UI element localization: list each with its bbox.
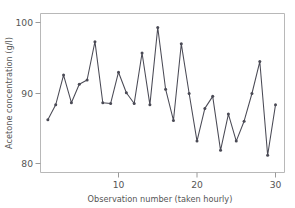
data-point — [54, 103, 57, 106]
data-series-group — [46, 26, 277, 157]
data-point — [250, 92, 253, 95]
data-point — [188, 92, 191, 95]
data-point — [156, 26, 159, 29]
x-axis-tick-labels: 10 20 30 — [113, 179, 282, 190]
y-axis-tick-labels: 100 90 80 — [15, 17, 33, 169]
y-tick-label-80: 80 — [21, 158, 33, 169]
x-tick-label-20: 20 — [191, 179, 203, 190]
data-point — [196, 140, 199, 143]
data-point — [164, 88, 167, 91]
plot-frame — [41, 14, 285, 173]
data-point — [148, 103, 151, 106]
data-point — [78, 83, 81, 86]
data-point — [86, 79, 89, 82]
x-axis-title: Observation number (taken hourly) — [88, 194, 233, 204]
data-point — [203, 107, 206, 110]
data-point — [243, 120, 246, 123]
data-point — [219, 149, 222, 152]
y-axis-title: Acetone concentration (g/l) — [4, 37, 14, 149]
data-point — [227, 113, 230, 116]
data-point — [62, 74, 65, 77]
acetone-concentration-chart: 100 90 80 10 20 30 Observation number (t… — [0, 0, 295, 208]
data-point — [117, 71, 120, 74]
data-point — [101, 101, 104, 104]
data-point — [211, 95, 214, 98]
data-point — [109, 102, 112, 105]
data-point — [70, 101, 73, 104]
data-point — [266, 154, 269, 157]
plot-frame-rect — [41, 14, 285, 173]
acetone-markers — [46, 26, 277, 157]
data-point — [46, 118, 49, 121]
y-tick-label-90: 90 — [21, 88, 33, 99]
data-point — [180, 42, 183, 45]
data-point — [125, 91, 128, 94]
y-tick-label-100: 100 — [15, 17, 33, 28]
data-point — [172, 119, 175, 122]
y-axis-ticks — [36, 23, 41, 164]
data-point — [133, 102, 136, 105]
x-tick-label-30: 30 — [270, 179, 282, 190]
acetone-line — [48, 27, 276, 155]
data-point — [93, 40, 96, 43]
x-axis-ticks — [119, 173, 276, 178]
chart-canvas: 100 90 80 10 20 30 Observation number (t… — [0, 0, 295, 208]
data-point — [235, 140, 238, 143]
data-point — [274, 103, 277, 106]
data-point — [258, 60, 261, 63]
data-point — [141, 52, 144, 55]
x-tick-label-10: 10 — [113, 179, 125, 190]
